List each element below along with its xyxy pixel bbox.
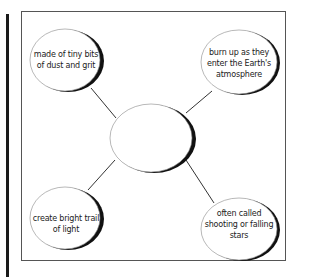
text-line: atmosphere bbox=[201, 69, 277, 80]
connector-bottom-right bbox=[186, 160, 214, 203]
text-line: often called bbox=[200, 208, 278, 219]
text-line: create bright trail bbox=[31, 213, 101, 224]
node-text-top-right: burn up as they enter the Earth's atmosp… bbox=[201, 47, 277, 80]
text-line: shooting or falling bbox=[200, 219, 278, 230]
text-line: of dust and grit bbox=[31, 60, 101, 71]
text-line: of light bbox=[31, 224, 101, 235]
connector-top-right bbox=[186, 91, 212, 113]
node-text-bottom-left: create bright trail of light bbox=[31, 213, 101, 235]
node-text-top-left: made of tiny bits of dust and grit bbox=[31, 49, 101, 71]
connector-bottom-left bbox=[88, 160, 115, 190]
text-line: enter the Earth's bbox=[201, 58, 277, 69]
center-oval bbox=[110, 104, 196, 173]
text-line: burn up as they bbox=[201, 47, 277, 58]
text-line: made of tiny bits bbox=[31, 49, 101, 60]
connector-top-left bbox=[91, 88, 116, 118]
node-text-bottom-right: often called shooting or falling stars bbox=[200, 208, 278, 241]
text-line: stars bbox=[200, 230, 278, 241]
